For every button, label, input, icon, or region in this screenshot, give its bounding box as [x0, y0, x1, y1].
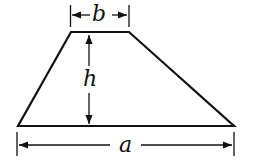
label-a: a: [117, 134, 134, 156]
trapezoid-shape: [18, 32, 234, 126]
label-h: h: [81, 68, 99, 90]
label-b: b: [90, 3, 108, 25]
